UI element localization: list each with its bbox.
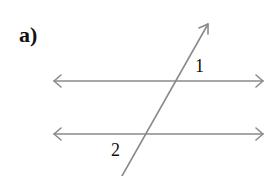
part-label: a): [19, 24, 37, 46]
parallel-lines-transversal-figure: [0, 0, 274, 176]
angle-2-label: 2: [111, 141, 120, 159]
parallel-line-top: [54, 75, 263, 87]
angle-1-label: 1: [195, 57, 204, 75]
parallel-line-bottom: [54, 128, 263, 140]
diagram-canvas: a) 1 2: [0, 0, 274, 176]
transversal-line: [122, 24, 208, 176]
